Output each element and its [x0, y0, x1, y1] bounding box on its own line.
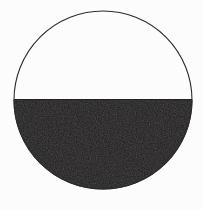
figure-canvas [0, 0, 203, 210]
half-shaded-circle-figure [0, 0, 203, 210]
